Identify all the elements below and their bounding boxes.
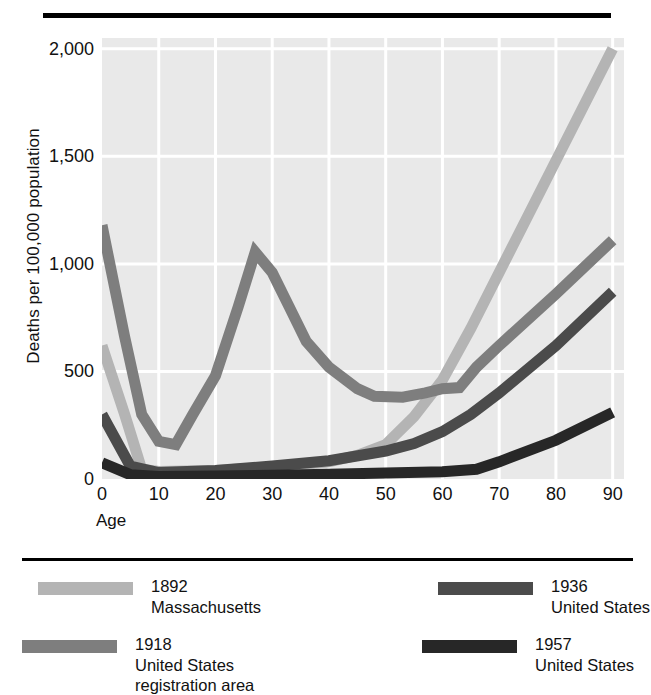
x-tick-label: 10	[139, 484, 179, 504]
legend-place-continued: registration area	[135, 675, 254, 695]
legend-swatch	[22, 640, 117, 653]
chart-legend: 1892Massachusetts1936United States1918Un…	[0, 572, 651, 695]
y-tick-label: 2,000	[10, 40, 94, 58]
y-axis-title: Deaths per 100,000 population	[24, 0, 44, 556]
plot-svg	[102, 38, 624, 479]
y-tick-label: 500	[10, 362, 94, 380]
x-axis-title: Age	[96, 511, 126, 531]
legend-label: 1918United Statesregistration area	[135, 634, 254, 695]
x-tick-label: 50	[366, 484, 406, 504]
legend-label: 1936United States	[551, 576, 650, 617]
legend-year: 1936	[551, 577, 588, 595]
plot-area	[102, 38, 624, 479]
legend-label: 1957United States	[535, 634, 634, 675]
legend-place: United States	[135, 655, 254, 676]
legend-label: 1892Massachusetts	[151, 576, 261, 617]
legend-place: United States	[535, 655, 634, 676]
x-tick-label: 40	[309, 484, 349, 504]
legend-swatch	[422, 640, 517, 653]
legend-place: Massachusetts	[151, 597, 261, 618]
series-line-1918	[102, 225, 613, 444]
legend-year: 1892	[151, 577, 188, 595]
x-tick-label: 80	[536, 484, 576, 504]
x-axis-tick-labels: 0102030405060708090	[102, 484, 651, 508]
x-tick-label: 90	[593, 484, 633, 504]
x-tick-label: 20	[195, 484, 235, 504]
x-tick-label: 60	[422, 484, 462, 504]
chart-figure: 05001,0001,5002,000 Deaths per 100,000 p…	[0, 0, 651, 695]
x-tick-label: 30	[252, 484, 292, 504]
legend-divider-rule	[22, 558, 633, 561]
legend-place: United States	[551, 597, 650, 618]
x-tick-label: 70	[479, 484, 519, 504]
legend-year: 1918	[135, 635, 172, 653]
top-rule	[43, 13, 611, 18]
y-tick-label: 1,000	[10, 255, 94, 273]
legend-swatch	[38, 582, 133, 595]
legend-year: 1957	[535, 635, 572, 653]
x-tick-label: 0	[82, 484, 122, 504]
y-axis-tick-labels: 05001,0001,5002,000	[0, 0, 94, 520]
series-line-1892	[102, 49, 613, 472]
legend-swatch	[438, 582, 533, 595]
y-tick-label: 1,500	[10, 147, 94, 165]
